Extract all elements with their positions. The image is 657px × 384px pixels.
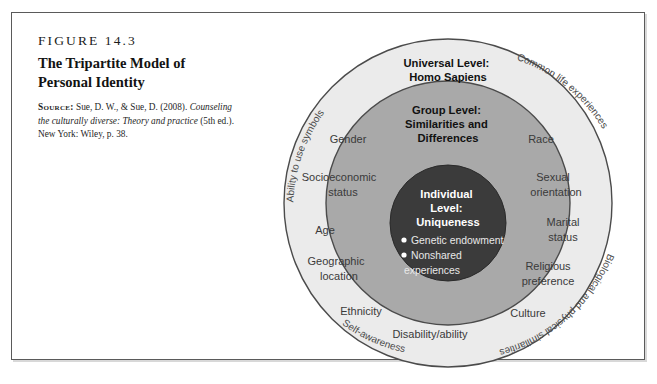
bullet-nonshared-experiences (401, 252, 406, 257)
figure-frame: FIGURE 14.3 The Tripartite Model of Pers… (11, 12, 645, 360)
figure-number: FIGURE 14.3 (38, 33, 243, 49)
figure-source: Source: Sue, D. W., & Sue, D. (2008). Co… (38, 101, 243, 141)
group-item-socioeconomic-status: status (328, 186, 358, 198)
group-item-socioeconomic: Socioeconomic (302, 171, 377, 183)
tripartite-model-diagram: Universal Level: Homo Sapiens Group Leve… (263, 27, 657, 373)
individual-item-experiences: experiences (404, 265, 460, 276)
group-item-age: Age (315, 224, 335, 236)
group-level-heading: Group Level: Similarities and Difference… (405, 104, 491, 144)
source-text-1: Sue, D. W., & Sue, D. (2008). (74, 102, 188, 112)
figure-title-line-1: The Tripartite Model of (38, 55, 185, 71)
bullet-genetic-endowment (401, 237, 406, 242)
group-item-sexual-orientation: orientation (530, 186, 581, 198)
group-item-marital-status: status (548, 231, 578, 243)
figure-title: The Tripartite Model of Personal Identit… (38, 54, 243, 92)
group-item-sexual: Sexual (536, 171, 570, 183)
group-item-marital: Marital (546, 216, 579, 228)
group-item-gender: Gender (330, 133, 367, 145)
group-item-geographic: Geographic (308, 255, 365, 267)
group-item-geographic-location: location (320, 270, 358, 282)
source-label: Source: (38, 102, 74, 112)
figure-title-line-2: Personal Identity (38, 74, 145, 90)
group-item-disability-ability: Disability/ability (392, 328, 468, 340)
group-item-religious-preference: preference (522, 275, 575, 287)
individual-item-genetic-endowment: Genetic endowment (411, 235, 504, 246)
group-item-culture: Culture (510, 307, 545, 319)
group-item-race: Race (528, 133, 554, 145)
figure-caption: FIGURE 14.3 The Tripartite Model of Pers… (38, 33, 243, 141)
group-item-religious: Religious (525, 260, 571, 272)
individual-item-nonshared: Nonshared (411, 250, 462, 261)
group-item-ethnicity: Ethnicity (340, 305, 382, 317)
